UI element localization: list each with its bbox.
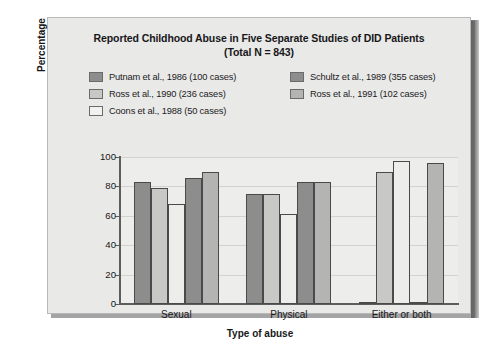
bar	[410, 302, 427, 304]
bar	[246, 194, 263, 304]
bar-group-either-or-both	[345, 157, 458, 304]
legend-item-coons-1988: Coons et al., 1988 (50 cases)	[89, 106, 226, 116]
legend-swatch-ross-1990	[89, 89, 103, 99]
bar-group-physical	[233, 157, 346, 304]
y-axis-tick-label: 60	[76, 210, 116, 221]
chart-title-line-1: Reported Childhood Abuse in Five Separat…	[48, 32, 470, 46]
bar	[297, 182, 314, 304]
plot-area-wrapper: 020406080100 SexualPhysicalEither or bot…	[120, 157, 458, 304]
bar	[151, 188, 168, 304]
x-axis-category-label: Either or both	[345, 309, 458, 320]
y-axis-tick-label: 100	[76, 151, 116, 162]
y-axis-tick-label: 80	[76, 180, 116, 191]
legend-swatch-ross-1991	[290, 89, 304, 99]
bar	[263, 194, 280, 304]
legend-label-coons-1988: Coons et al., 1988 (50 cases)	[109, 106, 226, 116]
bar	[376, 172, 393, 304]
bar	[134, 182, 151, 304]
legend-item-schultz-1989: Schultz et al., 1989 (355 cases)	[290, 72, 435, 82]
legend-item-ross-1990: Ross et al., 1990 (236 cases)	[89, 89, 226, 99]
x-axis-category-label: Sexual	[120, 309, 233, 320]
legend-label-ross-1991: Ross et al., 1991 (102 cases)	[310, 89, 427, 99]
chart-title-line-2: (Total N = 843)	[48, 46, 470, 60]
y-axis-tick-label: 40	[76, 239, 116, 250]
legend-swatch-putnam-1986	[89, 72, 103, 82]
chart-legend: Putnam et al., 1986 (100 cases) Ross et …	[89, 72, 439, 122]
chart-title: Reported Childhood Abuse in Five Separat…	[48, 32, 470, 59]
bar	[202, 172, 219, 304]
bar	[359, 302, 376, 304]
x-axis-title: Type of abuse	[48, 328, 472, 339]
y-axis-title: Percentage	[36, 18, 47, 72]
bar	[168, 204, 185, 304]
legend-label-ross-1990: Ross et al., 1990 (236 cases)	[109, 89, 226, 99]
bar	[185, 178, 202, 304]
bar	[280, 214, 297, 304]
x-axis-category-label: Physical	[233, 309, 346, 320]
bar	[393, 161, 410, 304]
legend-label-schultz-1989: Schultz et al., 1989 (355 cases)	[310, 72, 435, 82]
legend-item-ross-1991: Ross et al., 1991 (102 cases)	[290, 89, 427, 99]
y-axis-tick-label: 0	[76, 298, 116, 309]
legend-item-putnam-1986: Putnam et al., 1986 (100 cases)	[89, 72, 236, 82]
bar	[427, 163, 444, 304]
bar-group-sexual	[120, 157, 233, 304]
y-axis-tick-label: 20	[76, 269, 116, 280]
chart-figure-panel: Reported Childhood Abuse in Five Separat…	[47, 17, 471, 314]
legend-label-putnam-1986: Putnam et al., 1986 (100 cases)	[109, 72, 236, 82]
bar	[314, 182, 331, 304]
page-edge-shadow	[471, 20, 479, 318]
legend-swatch-coons-1988	[89, 106, 103, 116]
legend-swatch-schultz-1989	[290, 72, 304, 82]
